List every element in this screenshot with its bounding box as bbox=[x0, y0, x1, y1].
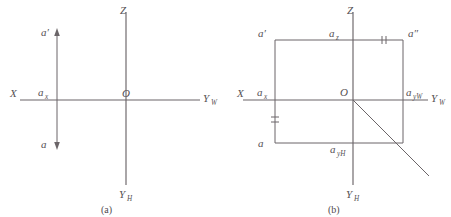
panel-a-z-axis-label: Z bbox=[120, 4, 127, 16]
panel-a-ax-label: a x bbox=[38, 86, 49, 101]
panel-b-a-double-prime-label: a″ bbox=[408, 27, 419, 39]
panel-b-a-label: a bbox=[258, 137, 264, 149]
panel-b-z-axis-label: Z bbox=[347, 4, 354, 16]
panel-a-arrow-down-icon bbox=[54, 142, 60, 150]
figure-root: a′ a a x X Y W Z Y H O (a) bbox=[0, 0, 451, 217]
svg-text:a: a bbox=[330, 143, 336, 155]
panel-b-yw-axis-label: Y W bbox=[431, 92, 446, 107]
panel-a-origin-label: O bbox=[122, 87, 130, 99]
panel-b-ayw-label: a yW bbox=[406, 86, 423, 101]
panel-b-a-prime-label: a′ bbox=[258, 27, 267, 39]
panel-a-x-axis-label: X bbox=[9, 87, 18, 99]
svg-text:a: a bbox=[406, 86, 412, 98]
panel-a: a′ a a x X Y W Z Y H O (a) bbox=[9, 4, 218, 216]
panel-a-arrow-up-icon bbox=[54, 28, 60, 36]
svg-text:yW: yW bbox=[412, 93, 423, 101]
panel-b: a′ a z a″ a x a yW a a yH X Y W bbox=[236, 4, 446, 216]
svg-text:yH: yH bbox=[336, 150, 346, 158]
panel-b-origin-label: O bbox=[340, 86, 348, 98]
panel-b-ayh-label: a yH bbox=[330, 143, 346, 158]
panel-a-a-label: a bbox=[41, 138, 47, 150]
svg-text:Y: Y bbox=[431, 92, 439, 104]
panel-a-yw-axis-label: Y W bbox=[203, 92, 218, 107]
panel-b-caption: (b) bbox=[328, 204, 340, 216]
panel-a-yh-axis-label: Y H bbox=[119, 188, 133, 203]
svg-text:a: a bbox=[329, 27, 335, 39]
panel-a-caption: (a) bbox=[101, 204, 112, 216]
svg-text:a: a bbox=[257, 86, 263, 98]
svg-text:W: W bbox=[211, 99, 218, 107]
svg-text:Y: Y bbox=[203, 92, 211, 104]
svg-text:W: W bbox=[439, 99, 446, 107]
panel-b-45-degree-line bbox=[353, 100, 429, 176]
svg-text:H: H bbox=[126, 195, 133, 203]
panel-a-a-prime-label: a′ bbox=[41, 26, 50, 38]
panel-b-x-axis-label: X bbox=[236, 87, 245, 99]
svg-text:H: H bbox=[353, 195, 360, 203]
projection-figure: a′ a a x X Y W Z Y H O (a) bbox=[0, 0, 451, 217]
svg-text:Y: Y bbox=[119, 188, 127, 200]
svg-text:z: z bbox=[335, 34, 339, 42]
panel-b-ax-label: a x bbox=[257, 86, 268, 101]
svg-text:a: a bbox=[38, 86, 44, 98]
svg-text:Y: Y bbox=[346, 188, 354, 200]
panel-b-yh-axis-label: Y H bbox=[346, 188, 360, 203]
